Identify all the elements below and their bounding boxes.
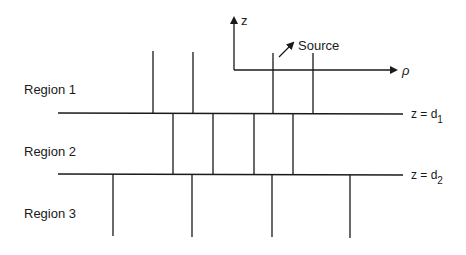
region-2-label: Region 2 [24, 144, 76, 159]
interface-d2-line [58, 174, 403, 175]
source-indicator: Source [279, 38, 339, 57]
rho-axis-label: ρ [401, 63, 410, 78]
region-1-label: Region 1 [24, 82, 76, 97]
region-2-elements [173, 113, 293, 175]
interface-d1-label: z = d1 [411, 107, 443, 125]
interface-d2-label: z = d2 [411, 168, 443, 186]
interface-d1-line [58, 113, 403, 114]
layered-media-diagram: z ρ Source Region 1 Region 2 Region 3 z … [0, 0, 466, 255]
region-3-elements [113, 174, 350, 238]
source-arrow-icon [279, 43, 293, 57]
z-axis-label: z [241, 13, 248, 28]
interface-d1-subscript: 1 [437, 114, 443, 125]
interface-d2-subscript: 2 [437, 175, 443, 186]
region-3-label: Region 3 [24, 206, 76, 221]
source-label: Source [298, 38, 339, 53]
region-1-elements [153, 51, 313, 114]
